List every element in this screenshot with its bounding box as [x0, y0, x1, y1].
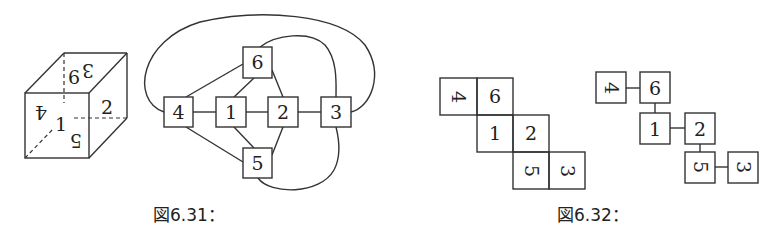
edge-4-5 [186, 127, 243, 162]
edge-5-2 [272, 127, 283, 155]
net-cell-5-label: 5 [521, 165, 543, 177]
tree-node-4-label: 4 [601, 82, 623, 94]
cube-face-6: 6 [68, 66, 80, 88]
graph-node-6-label: 6 [251, 51, 263, 73]
edge-6-2 [272, 70, 283, 97]
cube-face-3: 3 [82, 60, 94, 82]
cube-face-2: 2 [101, 96, 113, 118]
tree-node-6-label: 6 [649, 77, 661, 99]
edge-1-6 [234, 78, 254, 97]
adjacency-graph: 4 1 2 3 6 5 [145, 15, 375, 190]
caption-fig-6-32: 図6.32： [557, 205, 629, 225]
tree-node-1-label: 1 [649, 118, 661, 140]
cube-drawing: 6 3 4 1 5 2 [25, 53, 127, 158]
edge-1-5 [234, 127, 254, 148]
diagram-canvas: 6 3 4 1 5 2 4 1 2 3 6 5 図6.3 [0, 0, 782, 232]
net-tree: 4 6 1 2 5 3 [596, 72, 758, 183]
net-cell-6-label: 6 [489, 85, 501, 107]
edge-4-6 [186, 64, 243, 97]
graph-node-2-label: 2 [277, 101, 289, 123]
cube-face-1: 1 [55, 113, 67, 135]
cube-face-5: 5 [70, 130, 82, 152]
caption-fig-6-31: 図6.31： [153, 205, 225, 225]
net-cell-4-label: 4 [448, 91, 470, 103]
net-cell-3-label: 3 [557, 165, 579, 177]
cube-net: 4 6 1 2 5 3 [440, 78, 585, 189]
tree-node-5-label: 5 [690, 161, 712, 173]
graph-node-4-label: 4 [172, 101, 184, 123]
cube-face-4: 4 [35, 102, 47, 124]
graph-node-5-label: 5 [251, 152, 263, 174]
net-cell-2-label: 2 [525, 122, 537, 144]
graph-node-3-label: 3 [330, 101, 342, 123]
net-cell-1-label: 1 [489, 122, 501, 144]
tree-node-2-label: 2 [694, 118, 706, 140]
graph-node-1-label: 1 [225, 101, 237, 123]
tree-node-3-label: 3 [733, 161, 755, 173]
